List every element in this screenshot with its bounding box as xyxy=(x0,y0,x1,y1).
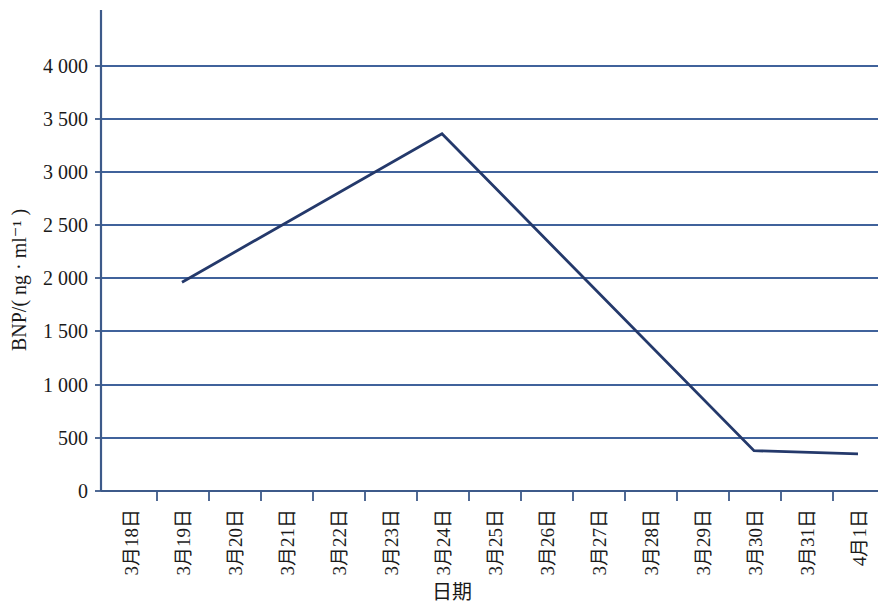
y-tick-label: 2 500 xyxy=(43,214,88,236)
y-tick-label: 500 xyxy=(58,427,88,449)
x-tick-label: 4月1日 xyxy=(849,509,870,566)
x-tick-label: 3月29日 xyxy=(693,509,714,576)
x-tick-label: 3月24日 xyxy=(433,509,454,576)
y-tick-label: 1 000 xyxy=(43,374,88,396)
x-tick-label: 3月31日 xyxy=(797,509,818,576)
axes xyxy=(101,10,878,491)
x-tick-label: 3月18日 xyxy=(121,509,142,576)
x-tick-label: 3月28日 xyxy=(641,509,662,576)
x-tick-label: 3月26日 xyxy=(537,509,558,576)
data-series-bnp xyxy=(182,134,858,454)
y-tick-label: 0 xyxy=(78,480,88,502)
x-tick-labels: 3月18日 3月19日 3月20日 3月21日 3月22日 3月23日 3月24… xyxy=(121,509,870,576)
gridlines xyxy=(101,66,878,438)
x-tick-label: 3月20日 xyxy=(225,509,246,576)
y-tick-label: 4 000 xyxy=(43,55,88,77)
y-tick-label: 1 500 xyxy=(43,320,88,342)
x-tick-label: 3月23日 xyxy=(381,509,402,576)
x-tick-label: 3月25日 xyxy=(485,509,506,576)
y-tick-labels: 4 000 3 500 3 000 2 500 2 000 1 500 1 00… xyxy=(43,55,88,502)
y-tick-label: 2 000 xyxy=(43,267,88,289)
y-tick-label: 3 000 xyxy=(43,161,88,183)
y-axis-title: BNP/( ng · ml⁻¹ ) xyxy=(8,209,31,351)
x-tick-label: 3月22日 xyxy=(329,509,350,576)
x-tick-label: 3月19日 xyxy=(173,509,194,576)
x-tick-label: 3月30日 xyxy=(745,509,766,576)
x-tick-label: 3月21日 xyxy=(277,509,298,576)
bnp-line-chart: 4 000 3 500 3 000 2 500 2 000 1 500 1 00… xyxy=(0,0,880,608)
x-tick-marks xyxy=(157,491,833,501)
chart-canvas: 4 000 3 500 3 000 2 500 2 000 1 500 1 00… xyxy=(0,0,880,608)
x-axis-title: 日期 xyxy=(432,581,472,603)
x-tick-label: 3月27日 xyxy=(589,509,610,576)
y-tick-label: 3 500 xyxy=(43,108,88,130)
